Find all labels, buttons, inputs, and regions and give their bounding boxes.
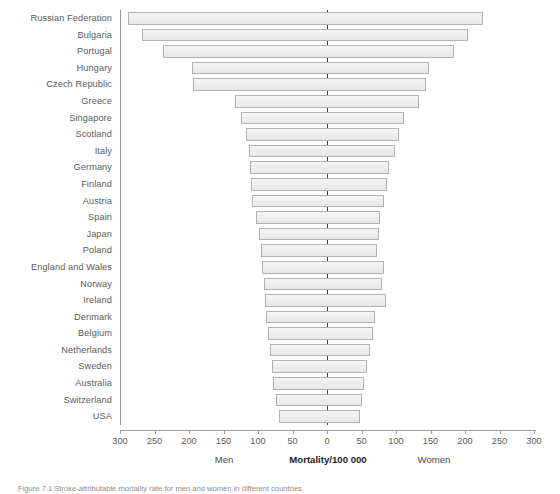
bar-women <box>327 178 387 191</box>
bar-row <box>120 60 536 77</box>
category-label: Austria <box>0 193 118 210</box>
bar-men <box>270 344 327 357</box>
category-label: England and Wales <box>0 259 118 276</box>
bar-women <box>327 360 367 373</box>
category-label: Bulgaria <box>0 27 118 44</box>
bar-women <box>327 62 429 75</box>
bar-row <box>120 176 536 193</box>
men-side-label: Men <box>215 454 234 465</box>
category-label: Switzerland <box>0 392 118 409</box>
bar-men <box>259 228 327 241</box>
category-label: Poland <box>0 242 118 259</box>
category-label: Finland <box>0 176 118 193</box>
bar-women <box>327 410 360 423</box>
category-label: Denmark <box>0 309 118 326</box>
bar-men <box>276 394 327 407</box>
x-axis-tick-label: 50 <box>287 436 297 446</box>
x-axis-tick-label: 200 <box>181 436 196 446</box>
x-axis-tick <box>500 430 501 434</box>
x-axis-tick <box>534 430 535 434</box>
bar-men <box>264 278 327 291</box>
bar-row <box>120 226 536 243</box>
category-label: Portugal <box>0 43 118 60</box>
bar-women <box>327 294 386 307</box>
x-axis-tick-label: 0 <box>324 436 329 446</box>
category-label: Hungary <box>0 60 118 77</box>
bar-row <box>120 43 536 60</box>
bar-women <box>327 228 379 241</box>
bar-men <box>193 78 327 91</box>
bar-women <box>327 278 382 291</box>
x-axis-title: Mortality/100 000 <box>289 454 366 465</box>
category-label: Ireland <box>0 292 118 309</box>
category-label: Czech Republic <box>0 76 118 93</box>
category-label: Norway <box>0 276 118 293</box>
bar-women <box>327 261 384 274</box>
figure-caption: Figure 7.1 Stroke-attributable mortality… <box>18 484 548 493</box>
bar-row <box>120 159 536 176</box>
bar-row <box>120 126 536 143</box>
bar-women <box>327 161 389 174</box>
category-label: USA <box>0 408 118 425</box>
x-axis-tick-label: 100 <box>388 436 403 446</box>
bar-row <box>120 392 536 409</box>
bar-men <box>192 62 327 75</box>
x-axis-tick-label: 200 <box>457 436 472 446</box>
x-axis-tick <box>155 430 156 434</box>
x-axis-tick <box>293 430 294 434</box>
x-axis-tick-label: 100 <box>250 436 265 446</box>
women-side-label: Women <box>418 454 451 465</box>
category-label: Italy <box>0 143 118 160</box>
bar-men <box>250 161 327 174</box>
bar-row <box>120 325 536 342</box>
bar-men <box>252 195 327 208</box>
bar-row <box>120 408 536 425</box>
x-axis-line <box>120 430 536 431</box>
bar-women <box>327 29 468 42</box>
x-axis-tick-label: 150 <box>423 436 438 446</box>
bar-rows <box>120 10 536 415</box>
bar-men <box>249 145 327 158</box>
bar-women <box>327 145 395 158</box>
x-axis-tick <box>224 430 225 434</box>
category-label: Spain <box>0 209 118 226</box>
bar-row <box>120 110 536 127</box>
x-axis-tick <box>120 430 121 434</box>
bar-row <box>120 143 536 160</box>
x-axis-tick <box>258 430 259 434</box>
bar-men <box>128 12 327 25</box>
x-axis-tick-label: 150 <box>216 436 231 446</box>
category-label: Scotland <box>0 126 118 143</box>
bar-row <box>120 193 536 210</box>
bar-men <box>256 211 327 224</box>
bar-men <box>142 29 327 42</box>
bar-row <box>120 309 536 326</box>
bar-men <box>251 178 327 191</box>
bar-row <box>120 76 536 93</box>
x-axis-tick <box>362 430 363 434</box>
bar-men <box>273 377 327 390</box>
x-axis-tick-label: 250 <box>147 436 162 446</box>
category-label: Netherlands <box>0 342 118 359</box>
category-label: Japan <box>0 226 118 243</box>
bar-row <box>120 259 536 276</box>
bar-men <box>279 410 327 423</box>
category-axis-labels: Russian FederationBulgariaPortugalHungar… <box>0 10 118 425</box>
bar-men <box>262 261 327 274</box>
x-axis-tick <box>189 430 190 434</box>
stroke-mortality-pyramid-chart: Russian FederationBulgariaPortugalHungar… <box>0 0 560 494</box>
bar-men <box>268 327 327 340</box>
bar-row <box>120 358 536 375</box>
bar-men <box>163 45 327 58</box>
x-axis-tick-label: 250 <box>492 436 507 446</box>
bar-women <box>327 112 404 125</box>
bar-women <box>327 128 399 141</box>
bar-men <box>246 128 327 141</box>
category-label: Germany <box>0 159 118 176</box>
bar-women <box>327 327 373 340</box>
bar-women <box>327 12 483 25</box>
bar-women <box>327 394 362 407</box>
bar-women <box>327 311 375 324</box>
bar-men <box>241 112 327 125</box>
bar-row <box>120 209 536 226</box>
